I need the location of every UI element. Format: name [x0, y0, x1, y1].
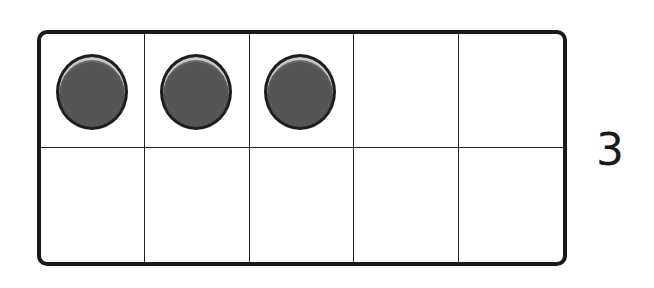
counter-icon — [264, 54, 336, 130]
counter-icon — [56, 54, 128, 130]
count-label: 3 — [596, 128, 624, 172]
frame-cell-r1c2 — [145, 34, 249, 148]
frame-cell-r1c5 — [459, 34, 563, 148]
frame-cell-r1c1 — [41, 34, 145, 148]
ten-frame — [37, 30, 567, 266]
frame-cell-r1c4 — [354, 34, 458, 148]
frame-cell-r2c1 — [41, 148, 145, 262]
frame-cell-r2c2 — [145, 148, 249, 262]
frame-cell-r2c4 — [354, 148, 458, 262]
counter-icon — [160, 54, 232, 130]
frame-cell-r2c3 — [250, 148, 354, 262]
frame-cell-r2c5 — [459, 148, 563, 262]
frame-cell-r1c3 — [250, 34, 354, 148]
